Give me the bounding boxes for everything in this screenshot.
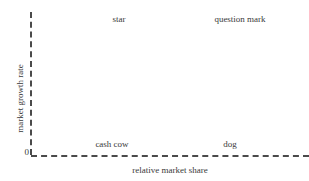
origin-tick-label: 0 xyxy=(20,147,29,158)
quadrant-label-star: star xyxy=(113,14,126,25)
y-axis-line xyxy=(30,12,32,155)
quadrant-label-question-mark: question mark xyxy=(214,14,265,25)
x-axis-title: relative market share xyxy=(31,165,309,176)
y-axis-title: market growth rate xyxy=(15,51,26,147)
bcg-matrix-chart: 0 market growth rate relative market sha… xyxy=(0,0,309,181)
quadrant-label-cash-cow: cash cow xyxy=(95,139,128,150)
x-axis-line xyxy=(31,155,309,157)
quadrant-label-dog: dog xyxy=(223,139,237,150)
